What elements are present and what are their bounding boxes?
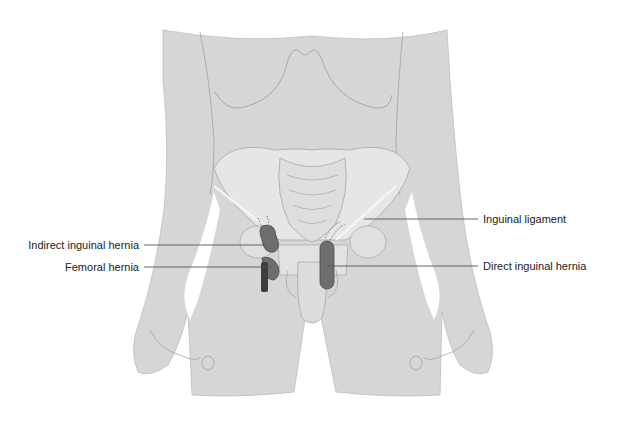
label-femoral-hernia: Femoral hernia [0,261,139,274]
label-indirect-inguinal-hernia: Indirect inguinal hernia [0,239,139,252]
label-inguinal-ligament: Inguinal ligament [483,213,566,226]
label-direct-inguinal-hernia: Direct inguinal hernia [483,260,586,273]
